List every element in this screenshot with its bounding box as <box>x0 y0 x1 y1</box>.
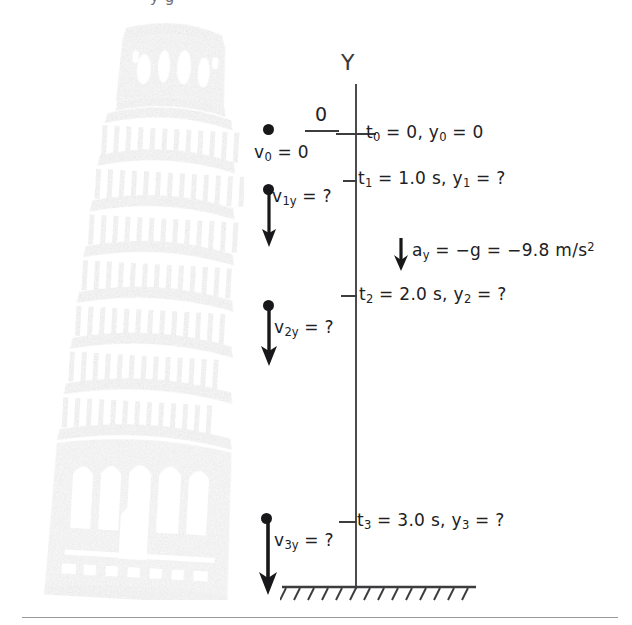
origin-label: 0 <box>315 103 327 125</box>
tick-t2 <box>341 295 357 297</box>
acceleration-arrow-icon <box>390 238 412 272</box>
leaning-tower-of-pisa-illustration <box>44 8 244 600</box>
label-t2: t2 = 2.0 s, y2 = ? <box>359 284 507 306</box>
bottom-divider <box>22 617 618 618</box>
ball-marker-t0 <box>263 124 274 135</box>
label-t3: t3 = 3.0 s, y3 = ? <box>357 510 505 532</box>
velocity-arrow-v2y-icon <box>255 309 283 367</box>
physics-figure: y g <box>0 0 632 625</box>
y-axis-label: Y <box>341 50 354 75</box>
origin-tick-mark <box>305 130 339 132</box>
label-t1: t1 = 1.0 s, y1 = ? <box>358 168 506 190</box>
label-v0: v0 = 0 <box>254 142 309 164</box>
velocity-arrow-v1y-icon <box>255 193 283 249</box>
ground-line <box>280 578 478 604</box>
tick-t1 <box>343 180 357 182</box>
label-acceleration: ay = −g = −9.8 m/s2 <box>412 240 595 262</box>
label-t0: t0 = 0, y0 = 0 <box>366 122 484 144</box>
velocity-arrow-v3y-icon <box>253 522 283 596</box>
tick-t3 <box>339 521 357 523</box>
clipped-caption-text: y g <box>150 0 175 6</box>
